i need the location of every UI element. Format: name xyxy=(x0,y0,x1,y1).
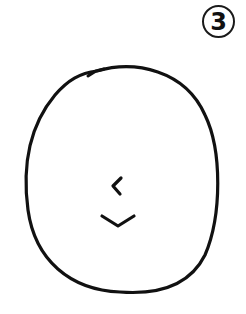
mouth-chevron xyxy=(102,216,134,226)
face-sketch xyxy=(0,0,246,314)
nose-chevron xyxy=(113,178,121,194)
head-outline xyxy=(26,67,218,293)
